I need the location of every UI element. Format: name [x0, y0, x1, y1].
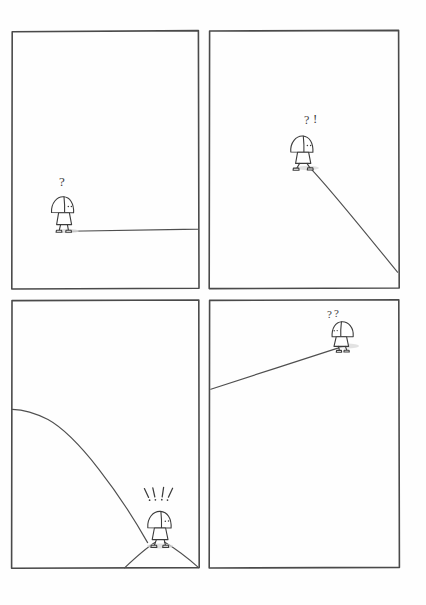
question-exclamation-emote: ? — [304, 113, 309, 127]
comic-page: Four-panel stick-figure comic ? — [0, 0, 426, 605]
figure-shoe-back — [293, 168, 299, 170]
question-mark-emote: ? — [59, 174, 65, 189]
figure-body — [57, 213, 72, 225]
figure-eye — [165, 520, 167, 522]
double-question-mark-emote: ? — [327, 308, 332, 320]
figure-body — [334, 337, 349, 347]
figure-shoe-back — [344, 350, 349, 352]
flat-horizon-line — [68, 229, 198, 231]
question-exclamation-emote: ! — [313, 111, 317, 126]
figure-eye — [168, 520, 170, 522]
figure-body — [296, 152, 311, 163]
stick-figure-panel-3 — [148, 511, 171, 547]
figure-shoe-front — [163, 545, 169, 547]
panel-4[interactable]: ? ? — [209, 300, 399, 568]
figure-head — [51, 197, 73, 213]
figure-head — [291, 136, 313, 152]
figure-head — [332, 322, 353, 337]
bang-dot-3 — [161, 499, 163, 501]
figure-shoe-front — [336, 350, 341, 352]
figure-shoe-back — [56, 230, 62, 232]
panel-3[interactable] — [12, 300, 200, 568]
figure-eye — [307, 145, 309, 147]
bang-stroke-3 — [162, 487, 163, 496]
panel-1-frame — [12, 31, 199, 289]
panel-1[interactable]: ? — [12, 31, 199, 289]
figure-shoe-front — [307, 168, 313, 170]
bang-stroke-2 — [153, 488, 155, 497]
figure-eye — [337, 330, 338, 331]
figure-shoe-back — [151, 545, 157, 547]
figure-body — [152, 528, 168, 540]
exclamation-burst-emote — [144, 487, 172, 501]
double-question-mark-emote: ? — [334, 307, 339, 319]
comic-canvas: ? — [0, 0, 426, 605]
stick-figure-panel-2 — [291, 136, 313, 170]
figure-eye — [310, 145, 312, 147]
figure-eye — [334, 330, 335, 331]
figure-head — [148, 511, 171, 528]
panel-4-frame — [209, 300, 399, 568]
stick-figure-panel-1 — [51, 197, 73, 233]
figure-leg-back — [59, 225, 60, 231]
bang-dot-1 — [149, 499, 151, 501]
bang-dot-4 — [167, 499, 169, 501]
figure-eye — [71, 206, 73, 208]
figure-eye — [68, 206, 70, 208]
uphill-slope-line — [211, 346, 343, 389]
bang-dot-2 — [155, 499, 157, 501]
figure-shoe-front — [66, 230, 72, 232]
descending-ridge-line — [12, 409, 147, 542]
downhill-slope-line — [311, 169, 398, 272]
bang-stroke-1 — [144, 489, 148, 498]
bang-stroke-4 — [168, 488, 172, 497]
panel-2[interactable]: ? ! — [209, 30, 399, 288]
